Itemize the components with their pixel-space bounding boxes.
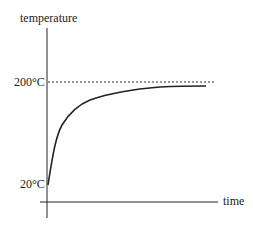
chart-canvas — [0, 0, 253, 227]
y-axis-label: temperature — [20, 12, 77, 24]
temperature-curve — [48, 86, 206, 185]
tick-label-200: 200°C — [14, 76, 45, 88]
tick-label-20: 20°C — [20, 178, 45, 190]
x-axis-label: time — [223, 195, 244, 207]
